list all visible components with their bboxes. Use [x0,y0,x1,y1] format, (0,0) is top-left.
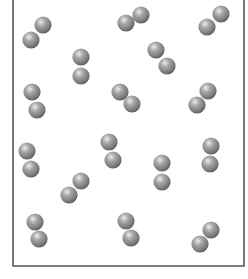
atom-sphere-icon [202,221,219,238]
atom-sphere-icon [117,212,134,229]
molecule [117,6,149,31]
atom-sphere-icon [22,160,39,177]
molecule [191,221,219,252]
atom-sphere-icon [132,6,149,23]
atom-sphere-icon [100,133,117,150]
molecule-container-diagram [0,0,248,279]
atom-sphere-icon [23,83,40,100]
atom-sphere-icon [60,186,77,203]
molecule [60,172,89,203]
atom-sphere-icon [72,48,89,65]
atom-sphere-icon [72,172,89,189]
molecule [147,41,175,74]
atom-sphere-icon [22,31,39,48]
atom-sphere-icon [72,67,89,84]
atom-sphere-icon [34,16,51,33]
atom-sphere-icon [158,57,175,74]
molecule [198,5,229,35]
atom-sphere-icon [28,101,45,118]
atom-sphere-icon [117,14,134,31]
molecule [188,82,216,113]
molecule [72,48,89,84]
atom-sphere-icon [153,173,170,190]
molecule [117,212,139,246]
molecules-group [18,5,229,252]
atom-sphere-icon [199,82,216,99]
atom-sphere-icon [198,18,215,35]
atom-sphere-icon [201,155,218,172]
molecule [201,137,219,172]
atom-sphere-icon [104,151,121,168]
atom-sphere-icon [202,137,219,154]
molecule [26,213,47,247]
molecule [111,83,140,112]
atom-sphere-icon [212,5,229,22]
atom-sphere-icon [26,213,43,230]
atom-sphere-icon [191,235,208,252]
molecule [22,16,51,48]
molecule [23,83,45,118]
molecule [100,133,121,168]
atom-sphere-icon [18,142,35,159]
molecule [153,154,170,190]
atom-sphere-icon [30,230,47,247]
atom-sphere-icon [122,229,139,246]
atom-sphere-icon [188,96,205,113]
atom-sphere-icon [153,154,170,171]
atom-sphere-icon [147,41,164,58]
atom-sphere-icon [111,83,128,100]
molecule [18,142,39,177]
